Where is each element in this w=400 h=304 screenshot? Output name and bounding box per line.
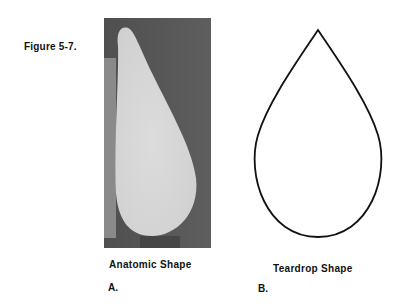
figure-label: Figure 5-7. bbox=[24, 41, 77, 52]
panel-b-caption: Teardrop Shape bbox=[273, 263, 353, 274]
panel-a-letter: A. bbox=[108, 282, 118, 293]
panel-b-letter: B. bbox=[258, 283, 268, 294]
panel-a-caption: Anatomic Shape bbox=[109, 259, 192, 270]
anatomic-implant-photo bbox=[104, 18, 211, 248]
teardrop-outline-drawing bbox=[240, 20, 400, 250]
